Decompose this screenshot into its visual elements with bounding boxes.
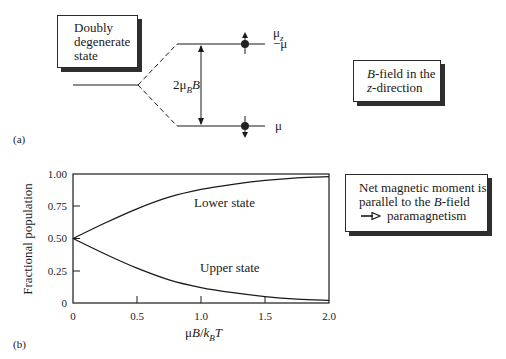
net-moment-line-1: Net magnetic moment is [359, 181, 487, 195]
upper-state-label: Upper state [200, 260, 260, 275]
ytick-label: 1.00 [48, 168, 68, 180]
xtick-label: 0 [70, 310, 76, 322]
xtick-label: 0.5 [130, 310, 144, 322]
paramagnetism-label: paramagnetism [387, 208, 466, 223]
lower-state-label: Lower state [194, 195, 255, 210]
panel-b-label: (b) [13, 338, 26, 350]
y-axis-label: Fractional population [20, 183, 35, 295]
ytick-label: 0.25 [48, 265, 68, 277]
x-ticks [137, 296, 265, 303]
x-axis-label: μB/kBT [185, 325, 222, 343]
ytick-label: 0.50 [48, 232, 68, 244]
ytick-label: 0.75 [48, 200, 68, 212]
implies-arrow-icon [361, 209, 383, 223]
net-moment-box: Net magnetic moment is parallel to the B… [345, 174, 488, 232]
xtick-label: 2.0 [322, 310, 336, 322]
xtick-label: 1.5 [258, 310, 272, 322]
xtick-label: 1.0 [194, 310, 208, 322]
plot-frame [73, 174, 329, 303]
ytick-label: 0 [62, 297, 68, 309]
